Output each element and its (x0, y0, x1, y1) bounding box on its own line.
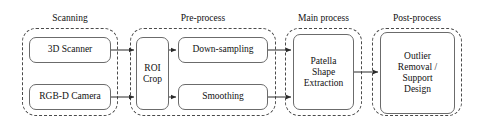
node-rgbd-camera[interactable]: RGB-D Camera (29, 84, 111, 110)
node-roi-crop[interactable]: ROI Crop (136, 37, 169, 110)
node-label-patella-shape-extraction: Patella Shape Extraction (304, 56, 344, 89)
node-down-sampling[interactable]: Down-sampling (178, 37, 268, 63)
node-label-roi-crop: ROI Crop (143, 63, 162, 85)
node-label-3d-scanner: 3D Scanner (48, 44, 93, 56)
node-label-smoothing: Smoothing (202, 91, 244, 103)
group-label-post-process: Post-process (372, 13, 462, 24)
group-label-pre-process: Pre-process (130, 13, 276, 24)
pipeline-diagram: Scanning Pre-process Main process Post-p… (0, 0, 477, 128)
node-3d-scanner[interactable]: 3D Scanner (29, 37, 111, 63)
group-label-main-process: Main process (280, 13, 367, 24)
node-outlier-removal-support-design[interactable]: Outlier Removal / Support Design (380, 32, 455, 114)
node-patella-shape-extraction[interactable]: Patella Shape Extraction (293, 34, 354, 110)
node-label-rgbd-camera: RGB-D Camera (39, 91, 100, 103)
node-smoothing[interactable]: Smoothing (178, 84, 268, 110)
node-label-outlier-removal-support-design: Outlier Removal / Support Design (398, 51, 437, 95)
group-label-scanning: Scanning (22, 13, 118, 24)
node-label-down-sampling: Down-sampling (192, 44, 253, 56)
